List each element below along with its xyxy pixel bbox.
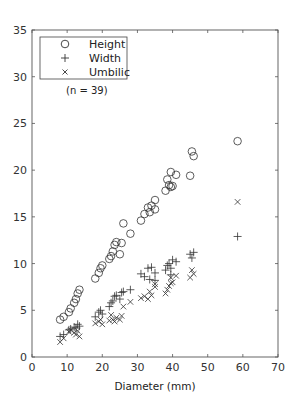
circle-marker-icon bbox=[162, 187, 170, 195]
circle-marker-icon bbox=[186, 172, 194, 180]
circle-marker-icon bbox=[234, 137, 242, 145]
x-tick-label: 40 bbox=[166, 361, 180, 374]
plus-marker-icon bbox=[105, 303, 113, 311]
x-tick-label: 30 bbox=[130, 361, 144, 374]
circle-marker-icon bbox=[113, 238, 121, 246]
y-tick-label: 30 bbox=[13, 71, 27, 84]
sample-size-annotation: (n = 39) bbox=[66, 85, 108, 96]
y-tick-label: 5 bbox=[20, 304, 27, 317]
plus-marker-icon bbox=[151, 276, 159, 284]
plus-marker-icon bbox=[169, 256, 177, 264]
circle-marker-icon bbox=[151, 196, 159, 204]
plus-marker-icon bbox=[165, 260, 173, 268]
y-tick-label: 25 bbox=[13, 117, 27, 130]
circle-marker-icon bbox=[91, 275, 99, 283]
circle-marker-icon bbox=[98, 262, 106, 270]
x-tick-label: 60 bbox=[236, 361, 250, 374]
plus-marker-icon bbox=[95, 308, 103, 316]
y-tick-label: 0 bbox=[20, 351, 27, 364]
plus-marker-icon bbox=[119, 288, 127, 296]
y-tick-label: 15 bbox=[13, 211, 27, 224]
circle-marker-icon bbox=[190, 152, 198, 160]
y-tick-label: 10 bbox=[13, 258, 27, 271]
x-tick-label: 50 bbox=[201, 361, 215, 374]
plus-marker-icon bbox=[144, 264, 152, 272]
legend: Height Width Umbilic bbox=[40, 37, 130, 79]
plus-marker-icon bbox=[151, 269, 159, 277]
circle-marker-icon bbox=[188, 148, 196, 156]
circle-marker-icon bbox=[106, 255, 114, 263]
x-marker-icon bbox=[128, 299, 134, 305]
plus-marker-icon bbox=[97, 306, 105, 314]
x-tick-label: 20 bbox=[95, 361, 109, 374]
plus-marker-icon bbox=[186, 250, 194, 258]
plus-marker-icon bbox=[190, 248, 198, 256]
plus-marker-icon bbox=[147, 263, 155, 271]
series-height bbox=[56, 137, 241, 323]
x-tick-label: 10 bbox=[60, 361, 74, 374]
plus-marker-icon bbox=[109, 297, 117, 305]
x-marker-icon bbox=[235, 199, 241, 205]
x-marker-icon bbox=[108, 312, 114, 318]
y-tick-label: 20 bbox=[13, 164, 27, 177]
plus-marker-icon bbox=[188, 254, 196, 262]
scatter-chart: 01020304050607005101520253035 Height Wid… bbox=[0, 0, 301, 400]
x-tick-label: 70 bbox=[271, 361, 285, 374]
plus-marker-icon bbox=[234, 232, 242, 240]
plus-marker-icon bbox=[162, 266, 170, 274]
x-marker-icon bbox=[173, 273, 179, 279]
x-marker-icon bbox=[168, 280, 174, 286]
circle-marker-icon bbox=[95, 269, 103, 277]
x-tick-label: 0 bbox=[29, 361, 36, 374]
y-tick-label: 35 bbox=[13, 24, 27, 37]
x-marker-icon bbox=[170, 279, 176, 285]
plus-marker-icon bbox=[172, 258, 180, 266]
circle-marker-icon bbox=[111, 241, 119, 249]
circle-marker-icon bbox=[120, 220, 128, 228]
x-marker-icon bbox=[99, 322, 105, 328]
x-marker-icon bbox=[98, 317, 104, 323]
x-axis-label: Diameter (mm) bbox=[114, 380, 195, 392]
plus-marker-icon bbox=[98, 310, 106, 318]
circle-marker-icon bbox=[118, 239, 126, 247]
plus-marker-icon bbox=[126, 286, 134, 294]
legend-label-umbilic: Umbilic bbox=[89, 66, 130, 79]
series-umbilic bbox=[57, 199, 240, 345]
circle-marker-icon bbox=[116, 250, 124, 258]
circle-marker-icon bbox=[127, 230, 135, 238]
circle-marker-icon bbox=[107, 252, 115, 260]
x-marker-icon bbox=[152, 284, 158, 290]
x-marker-icon bbox=[121, 304, 127, 310]
legend-label-width: Width bbox=[89, 52, 121, 65]
data-markers bbox=[56, 137, 241, 344]
plus-marker-icon bbox=[107, 299, 115, 307]
series-width bbox=[56, 232, 241, 340]
circle-marker-icon bbox=[97, 264, 105, 272]
legend-label-height: Height bbox=[89, 38, 126, 51]
